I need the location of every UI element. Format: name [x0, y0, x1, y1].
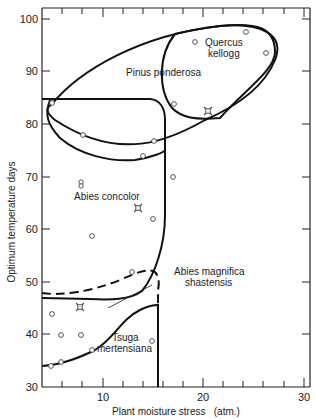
x-tick-20: 20: [197, 391, 209, 403]
label-tsuga-1: Tsuga: [112, 332, 139, 343]
y-tick-60: 60: [26, 223, 38, 235]
label-abies-magnifica-2: shastensis: [185, 277, 232, 288]
region-abies-magnifica-shastensis: [42, 270, 159, 387]
y-tick-80: 80: [26, 118, 38, 130]
y-tick-90: 90: [26, 65, 38, 77]
leader-line: [108, 285, 152, 308]
y-tick-70: 70: [26, 171, 38, 183]
label-quercus-1: Quercus: [205, 37, 243, 48]
chart: 100 90 80 70 60 50 40 30 10 20 30 Plant …: [0, 0, 316, 419]
y-tick-labels: 100 90 80 70 60 50 40 30: [20, 13, 38, 393]
y-tick-40: 40: [26, 328, 38, 340]
y-tick-30: 30: [26, 381, 38, 393]
label-abies-magnifica-1: Abies magnifica: [174, 266, 245, 277]
label-tsuga-2: mertensiana: [97, 343, 152, 354]
y-tick-100: 100: [20, 13, 38, 25]
label-quercus-2: kellogg: [208, 48, 240, 59]
x-tick-labels: 10 20 30: [97, 391, 310, 403]
x-axis-title: Plant moisture stress (atm.): [112, 406, 240, 417]
y-axis-title: Optimum temperature days: [6, 161, 17, 282]
y-tick-50: 50: [26, 276, 38, 288]
label-pinus-ponderosa: Pinus ponderosa: [126, 67, 201, 78]
x-tick-10: 10: [97, 391, 109, 403]
x-tick-30: 30: [298, 391, 310, 403]
label-abies-concolor: Abies concolor: [74, 191, 140, 202]
region-abies-concolor-lobe: [47, 100, 165, 160]
